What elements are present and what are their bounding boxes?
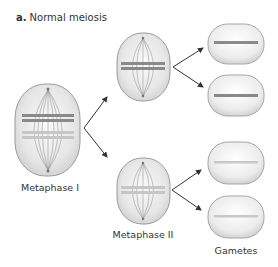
gamete-2: [208, 75, 264, 116]
gamete-1: [208, 24, 264, 64]
label-metaphase-1: Metaphase I: [20, 182, 80, 193]
metaphase-2-top-cell: [117, 33, 170, 101]
label-metaphase-2: Metaphase II: [107, 229, 179, 240]
arrow-up: [84, 97, 107, 128]
gamete-3: [208, 142, 264, 184]
metaphase-1-cell: [15, 84, 80, 176]
metaphase-2-bottom-cell: [117, 158, 170, 224]
arrow-down: [84, 128, 107, 157]
meiosis-diagram: [0, 0, 278, 267]
gamete-4: [208, 196, 264, 238]
label-gametes: Gametes: [206, 245, 266, 256]
